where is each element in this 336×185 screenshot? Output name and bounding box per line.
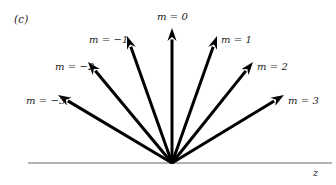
vector-arrow-shaft <box>131 47 172 163</box>
vector-arrow <box>172 36 217 163</box>
vector-arrows-group <box>58 28 284 163</box>
vector-arrow <box>172 62 253 163</box>
vector-label-m-minus3: m = −3 <box>26 95 66 106</box>
vector-label-m-0: m = 0 <box>157 11 188 22</box>
vector-arrow-shaft <box>172 71 246 163</box>
vector-arrow-shaft <box>172 101 274 163</box>
vector-arrow <box>127 36 172 163</box>
vector-label-m-minus2: m = −2 <box>55 61 95 72</box>
vector-arrow-head <box>167 28 176 41</box>
figure-panel-c: (c) z m = −3m = −2m = −1m = 0m = 1m = 2m… <box>0 0 336 185</box>
vector-model-diagram <box>0 0 336 185</box>
vector-arrow <box>167 28 176 163</box>
vector-arrow-shaft <box>68 101 172 163</box>
vector-arrow-shaft <box>172 47 213 163</box>
vector-label-m-3: m = 3 <box>288 95 319 106</box>
vector-arrow <box>172 95 284 163</box>
vector-label-m-2: m = 2 <box>257 61 288 72</box>
vector-label-m-minus1: m = −1 <box>89 34 129 45</box>
z-axis-label: z <box>313 167 318 178</box>
vector-arrow <box>88 62 172 163</box>
panel-tag: (c) <box>14 14 28 25</box>
vector-label-m-1: m = 1 <box>221 34 252 45</box>
vector-arrow <box>58 95 172 163</box>
vector-arrow-shaft <box>95 71 172 163</box>
